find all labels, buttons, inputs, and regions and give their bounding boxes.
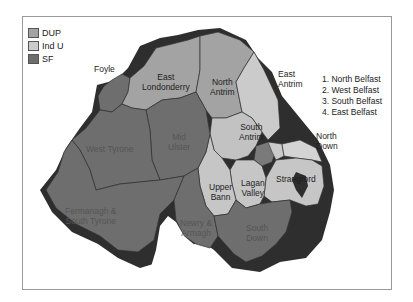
label-upper-bann: UpperBann	[209, 182, 232, 202]
label-south-antrim: SouthAntrim	[239, 122, 264, 142]
label-strangford: Strangford	[276, 174, 316, 184]
label-line: Newry &	[180, 218, 212, 228]
key-south-belfast: 3. South Belfast	[322, 96, 382, 107]
label-north-down: NorthDown	[316, 131, 338, 151]
belfast-key: 1. North Belfast 2. West Belfast 3. Sout…	[322, 74, 382, 118]
label-line: Antrim	[278, 79, 303, 89]
label-south-down: SouthDown	[246, 223, 268, 243]
label-foyle: Foyle	[94, 64, 115, 74]
label-line: South Tyrone	[65, 216, 117, 226]
legend-label-ind-u: Ind U	[42, 41, 64, 51]
label-line: Lagan	[241, 178, 265, 188]
label-line: Bann	[209, 192, 232, 202]
label-fermanagh-south-tyrone: Fermanagh &South Tyrone	[65, 206, 117, 226]
label-line: Londonderry	[142, 82, 190, 92]
legend-swatch-sf	[28, 54, 39, 64]
label-line: South	[239, 122, 264, 132]
label-line: Upper	[209, 182, 232, 192]
label-line: Down	[246, 233, 268, 243]
key-east-belfast: 4. East Belfast	[322, 107, 382, 118]
legend-item-ind-u: Ind U	[28, 39, 64, 52]
label-west-tyrone: West Tyrone	[86, 144, 133, 154]
label-line: Ulster	[168, 142, 190, 152]
label-lagan-valley: LaganValley	[241, 178, 265, 198]
label-line: Armagh	[180, 228, 212, 238]
label-north-antrim: NorthAntrim	[210, 77, 235, 97]
legend-item-dup: DUP	[28, 26, 64, 39]
legend-swatch-ind-u	[28, 41, 39, 51]
label-line: Down	[316, 141, 338, 151]
legend-swatch-dup	[28, 28, 39, 38]
label-line: East	[142, 72, 190, 82]
key-north-belfast: 1. North Belfast	[322, 74, 382, 85]
label-line: Antrim	[210, 87, 235, 97]
legend-label-sf: SF	[42, 54, 54, 64]
label-east-antrim: EastAntrim	[278, 69, 303, 89]
label-newry-armagh: Newry &Armagh	[180, 218, 212, 238]
label-line: South	[246, 223, 268, 233]
key-west-belfast: 2. West Belfast	[322, 85, 382, 96]
label-line: Mid	[168, 132, 190, 142]
label-line: Antrim	[239, 132, 264, 142]
label-east-londonderry: EastLondonderry	[142, 72, 190, 92]
legend-label-dup: DUP	[42, 28, 61, 38]
label-line: Fermanagh &	[65, 206, 117, 216]
label-line: North	[316, 131, 338, 141]
label-line: North	[210, 77, 235, 87]
label-line: Valley	[241, 188, 265, 198]
legend: DUP Ind U SF	[28, 26, 64, 65]
label-line: East	[278, 69, 303, 79]
legend-item-sf: SF	[28, 52, 64, 65]
label-mid-ulster: MidUlster	[168, 132, 190, 152]
